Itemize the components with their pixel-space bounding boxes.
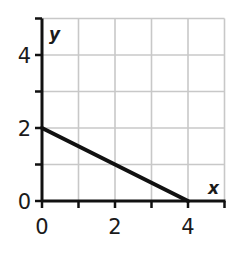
chart: 024024 x y	[0, 0, 239, 255]
y-tick-label: 0	[18, 190, 31, 214]
y-tick-label: 4	[18, 44, 31, 68]
x-tick-label: 4	[181, 215, 194, 239]
x-tick-label: 0	[35, 215, 48, 239]
y-axis-label: y	[49, 24, 61, 44]
x-tick-label: 2	[108, 215, 121, 239]
axes	[35, 19, 226, 209]
y-tick-label: 2	[18, 117, 31, 141]
tick-labels: 024024	[18, 44, 195, 239]
x-axis-label: x	[207, 178, 220, 198]
